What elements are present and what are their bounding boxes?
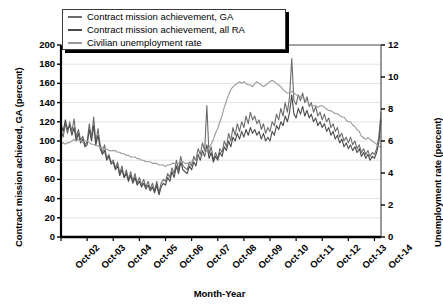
legend-item: Contract mission achievement, GA	[68, 10, 285, 23]
legend-label-ga: Contract mission achievement, GA	[87, 10, 233, 23]
legend-swatch-unemployment	[68, 42, 82, 44]
legend-label-all-ra: Contract mission achievement, all RA	[87, 23, 245, 36]
legend-swatch-all-ra	[68, 29, 82, 31]
chart-legend: Contract mission achievement, GA Contrac…	[62, 9, 286, 50]
plot-area	[61, 45, 381, 237]
legend-label-unemployment: Civilian unemployment rate	[87, 36, 202, 49]
legend-swatch-ga	[68, 16, 82, 18]
legend-item: Civilian unemployment rate	[68, 36, 285, 49]
series-line	[61, 58, 381, 192]
legend-item: Contract mission achievement, all RA	[68, 23, 285, 36]
